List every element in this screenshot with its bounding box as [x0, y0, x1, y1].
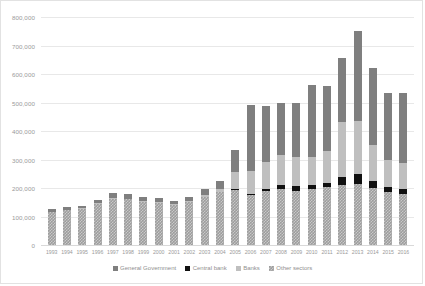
bar-segment[interactable] — [369, 68, 377, 145]
bar-stack[interactable] — [277, 103, 285, 245]
bar-segment[interactable] — [201, 197, 209, 245]
bar-segment[interactable] — [338, 185, 346, 245]
bar-segment[interactable] — [384, 192, 392, 245]
bar-stack[interactable] — [139, 197, 147, 245]
bar-segment[interactable] — [247, 105, 255, 171]
bar-stack[interactable] — [247, 105, 255, 245]
bar-stack[interactable] — [231, 150, 239, 245]
bar-column[interactable] — [105, 17, 120, 245]
bar-column[interactable] — [304, 17, 319, 245]
bar-segment[interactable] — [399, 194, 407, 245]
bar-column[interactable] — [75, 17, 90, 245]
bar-column[interactable] — [166, 17, 181, 245]
bar-column[interactable] — [212, 17, 227, 245]
bar-column[interactable] — [350, 17, 365, 245]
bar-stack[interactable] — [78, 206, 86, 245]
bar-stack[interactable] — [369, 68, 377, 245]
bar-segment[interactable] — [48, 212, 56, 245]
bar-segment[interactable] — [262, 106, 270, 162]
bar-segment[interactable] — [216, 192, 224, 245]
bar-segment[interactable] — [369, 145, 377, 181]
bar-segment[interactable] — [338, 58, 346, 122]
bar-stack[interactable] — [216, 181, 224, 245]
bar-stack[interactable] — [399, 93, 407, 245]
bar-column[interactable] — [151, 17, 166, 245]
bar-stack[interactable] — [63, 207, 71, 245]
bar-stack[interactable] — [124, 194, 132, 245]
bar-segment[interactable] — [94, 204, 102, 245]
bar-stack[interactable] — [94, 200, 102, 245]
bar-column[interactable] — [228, 17, 243, 245]
bar-segment[interactable] — [231, 150, 239, 172]
bar-segment[interactable] — [338, 122, 346, 176]
bar-segment[interactable] — [262, 191, 270, 245]
bar-segment[interactable] — [247, 195, 255, 245]
bar-segment[interactable] — [63, 210, 71, 245]
bar-segment[interactable] — [292, 103, 300, 157]
bar-segment[interactable] — [185, 202, 193, 245]
bar-column[interactable] — [289, 17, 304, 245]
bar-segment[interactable] — [323, 187, 331, 245]
bar-segment[interactable] — [354, 174, 362, 184]
bar-column[interactable] — [182, 17, 197, 245]
legend-item[interactable]: General Government — [113, 265, 177, 271]
bar-segment[interactable] — [369, 181, 377, 188]
bar-segment[interactable] — [369, 188, 377, 245]
bar-segment[interactable] — [124, 199, 132, 245]
bar-segment[interactable] — [216, 181, 224, 189]
bar-stack[interactable] — [338, 58, 346, 245]
bar-segment[interactable] — [354, 121, 362, 174]
bar-segment[interactable] — [384, 93, 392, 161]
bar-stack[interactable] — [155, 198, 163, 245]
bar-column[interactable] — [396, 17, 411, 245]
bar-segment[interactable] — [292, 191, 300, 245]
bar-segment[interactable] — [247, 171, 255, 194]
legend-item[interactable]: Central bank — [185, 265, 227, 271]
bar-column[interactable] — [44, 17, 59, 245]
bar-stack[interactable] — [185, 197, 193, 245]
bar-column[interactable] — [243, 17, 258, 245]
bar-column[interactable] — [136, 17, 151, 245]
bar-segment[interactable] — [277, 103, 285, 155]
bar-stack[interactable] — [384, 93, 392, 245]
bar-stack[interactable] — [201, 189, 209, 245]
bar-segment[interactable] — [277, 189, 285, 245]
bar-segment[interactable] — [78, 209, 86, 245]
bar-stack[interactable] — [323, 86, 331, 245]
bar-column[interactable] — [59, 17, 74, 245]
bar-stack[interactable] — [292, 103, 300, 245]
bar-segment[interactable] — [109, 199, 117, 245]
bar-stack[interactable] — [109, 193, 117, 245]
bar-column[interactable] — [90, 17, 105, 245]
bar-segment[interactable] — [262, 162, 270, 189]
bar-column[interactable] — [319, 17, 334, 245]
bar-stack[interactable] — [262, 106, 270, 245]
bar-segment[interactable] — [338, 177, 346, 186]
bar-segment[interactable] — [292, 157, 300, 186]
bar-stack[interactable] — [308, 85, 316, 245]
legend-item[interactable]: Other sectors — [269, 265, 313, 271]
legend-item[interactable]: Banks — [236, 265, 260, 271]
bar-stack[interactable] — [354, 31, 362, 245]
bar-segment[interactable] — [308, 85, 316, 156]
bar-segment[interactable] — [323, 151, 331, 182]
bar-column[interactable] — [120, 17, 135, 245]
bar-stack[interactable] — [48, 209, 56, 245]
bar-segment[interactable] — [231, 190, 239, 245]
bar-column[interactable] — [381, 17, 396, 245]
bar-column[interactable] — [258, 17, 273, 245]
bar-segment[interactable] — [323, 86, 331, 152]
bar-segment[interactable] — [354, 184, 362, 245]
bar-segment[interactable] — [308, 189, 316, 245]
bar-segment[interactable] — [308, 157, 316, 185]
bar-segment[interactable] — [399, 93, 407, 163]
bar-segment[interactable] — [170, 205, 178, 245]
bar-segment[interactable] — [354, 31, 362, 121]
bar-segment[interactable] — [231, 172, 239, 189]
bar-segment[interactable] — [277, 155, 285, 185]
bar-stack[interactable] — [170, 201, 178, 245]
bar-segment[interactable] — [384, 160, 392, 187]
bar-column[interactable] — [365, 17, 380, 245]
bar-column[interactable] — [335, 17, 350, 245]
bar-column[interactable] — [197, 17, 212, 245]
